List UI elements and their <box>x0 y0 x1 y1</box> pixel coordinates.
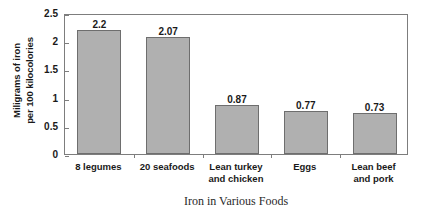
bar-chart-figure: Miligrams of iron per 100 kilocolories 0… <box>0 0 428 221</box>
chart-title: Iron in Various Foods <box>64 194 408 208</box>
y-axis-tick-mark <box>65 156 69 157</box>
x-axis-category-label-line: Lean beef <box>339 161 408 173</box>
y-axis-tick-label: 0 <box>28 150 58 160</box>
bar <box>215 105 259 154</box>
bar <box>146 37 190 154</box>
y-axis-tick-mark <box>65 100 69 101</box>
x-axis-category-label: 8 legumes <box>64 161 133 173</box>
y-axis-title-line-1: Miligrams of iron <box>11 37 24 124</box>
y-axis-tick-mark <box>65 128 69 129</box>
x-axis-category-label-line: and pork <box>339 173 408 185</box>
bar-value-label: 2.07 <box>138 26 198 37</box>
x-axis-tick-mark <box>271 154 272 158</box>
x-axis-category-label-line: Eggs <box>270 161 339 173</box>
x-axis-tick-mark <box>134 154 135 158</box>
y-axis-tick-mark <box>65 71 69 72</box>
x-axis-tick-mark <box>203 154 204 158</box>
bar-value-label: 0.73 <box>345 102 405 113</box>
x-axis-category-label: Lean turkeyand chicken <box>202 161 271 184</box>
x-axis-category-label-line: 20 seafoods <box>133 161 202 173</box>
y-axis-tick-label: 1.5 <box>28 65 58 75</box>
bar <box>77 30 121 154</box>
x-axis-category-label-line: Lean turkey <box>202 161 271 173</box>
bar <box>353 113 397 154</box>
plot-area: 2.22.070.870.770.73 <box>64 14 408 155</box>
x-axis-category-label-line: and chicken <box>202 173 271 185</box>
x-axis-tick-mark <box>340 154 341 158</box>
bar-value-label: 0.77 <box>276 100 336 111</box>
y-axis-tick-label: 2 <box>28 37 58 47</box>
bar <box>284 111 328 154</box>
y-axis-tick-mark <box>65 43 69 44</box>
y-axis-tick-mark <box>65 15 69 16</box>
y-axis-tick-label: 2.5 <box>28 9 58 19</box>
y-axis-title-line-2: per 100 kilocolories <box>23 37 36 124</box>
x-axis-category-label: Lean beefand pork <box>339 161 408 184</box>
x-axis-category-label-line: 8 legumes <box>64 161 133 173</box>
x-axis-category-label: Eggs <box>270 161 339 173</box>
x-axis-category-label: 20 seafoods <box>133 161 202 173</box>
y-axis-title: Miligrams of iron per 100 kilocolories <box>0 0 46 160</box>
bar-value-label: 2.2 <box>69 19 129 30</box>
bar-value-label: 0.87 <box>207 94 267 105</box>
y-axis-tick-label: 0.5 <box>28 122 58 132</box>
y-axis-tick-label: 1 <box>28 94 58 104</box>
